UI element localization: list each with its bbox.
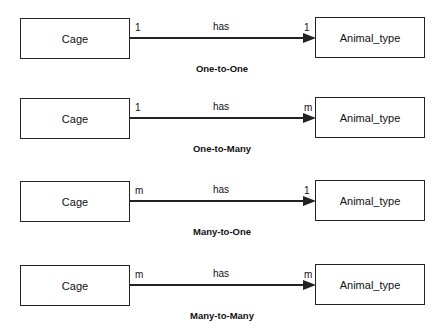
relationship-line: [130, 284, 306, 286]
left-cardinality: m: [135, 269, 143, 280]
entity-animal-type: Animal_type: [315, 180, 425, 221]
relationship-caption: Many-to-One: [0, 226, 444, 237]
relationship-many-to-many: Cage m has m Animal_type Many-to-Many: [0, 247, 444, 327]
relationship-line: [130, 200, 306, 202]
entity-cage: Cage: [20, 98, 130, 139]
entity-animal-type: Animal_type: [315, 97, 425, 138]
entity-animal-type: Animal_type: [315, 264, 425, 305]
relationship-line: [130, 37, 306, 39]
relationship-caption: Many-to-Many: [0, 310, 444, 321]
relationship-verb: has: [213, 268, 229, 279]
right-cardinality: m: [304, 102, 312, 113]
relationship-verb: has: [213, 21, 229, 32]
right-cardinality: 1: [304, 185, 310, 196]
relationship-verb: has: [213, 184, 229, 195]
relationship-one-to-many: Cage 1 has m Animal_type One-to-Many: [0, 80, 444, 160]
relationship-line: [130, 117, 306, 119]
entity-cage: Cage: [20, 18, 130, 59]
relationship-verb: has: [213, 101, 229, 112]
left-cardinality: m: [135, 185, 143, 196]
left-cardinality: 1: [135, 22, 141, 33]
relationship-one-to-one: Cage 1 has 1 Animal_type One-to-One: [0, 0, 444, 80]
right-cardinality: 1: [304, 22, 310, 33]
left-cardinality: 1: [135, 102, 141, 113]
entity-cage: Cage: [20, 181, 130, 222]
relationship-caption: One-to-One: [0, 63, 444, 74]
relationship-caption: One-to-Many: [0, 143, 444, 154]
right-cardinality: m: [304, 269, 312, 280]
relationship-many-to-one: Cage m has 1 Animal_type Many-to-One: [0, 163, 444, 243]
entity-cage: Cage: [20, 265, 130, 306]
entity-animal-type: Animal_type: [315, 17, 425, 58]
